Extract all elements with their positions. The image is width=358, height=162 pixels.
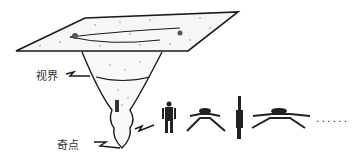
emerge-arrow — [135, 125, 154, 131]
ellipsis: ...... — [316, 112, 349, 125]
gravity-funnel — [82, 52, 162, 148]
spacetime-sheet — [16, 12, 238, 51]
flattened-figure-2 — [252, 109, 310, 128]
horizon-arrow — [66, 72, 90, 76]
flattened-figure-1 — [187, 109, 225, 131]
horizon-label: 视界 — [36, 67, 58, 83]
singularity-label: 奇点 — [57, 136, 79, 152]
singularity-arrow — [94, 142, 120, 148]
human-figure-1 — [162, 102, 176, 134]
stretched-figure — [236, 96, 243, 139]
